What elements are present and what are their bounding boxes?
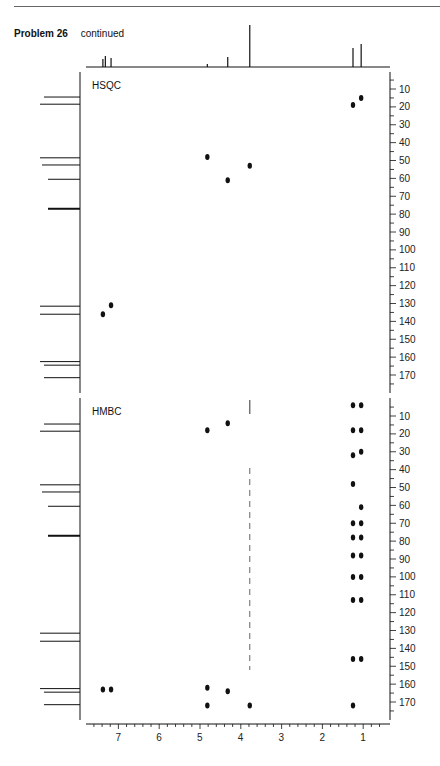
cross-peak [359,656,363,662]
panel-label-hmbc: HMBC [92,406,121,417]
cross-peak [101,686,105,692]
cross-peak [359,535,363,541]
cross-peak [205,703,209,709]
cross-peak [101,311,105,317]
cross-peak [109,302,113,308]
y-tick-label: 20 [399,101,411,112]
cross-peak [248,703,252,709]
y-tick-label: 170 [399,370,416,381]
cross-peak [359,427,363,433]
cross-peak [109,686,113,692]
cross-peak [359,402,363,408]
cross-peak [205,685,209,691]
y-tick-label: 30 [399,446,411,457]
y-tick-label: 90 [399,554,411,565]
y-tick-label: 170 [399,697,416,708]
y-tick-label: 90 [399,227,411,238]
y-tick-label: 70 [399,518,411,529]
y-tick-label: 60 [399,500,411,511]
x-tick-label: 6 [156,732,162,743]
y-tick-label: 80 [399,209,411,220]
y-tick-label: 150 [399,661,416,672]
cross-peak [351,552,355,558]
y-tick-label: 120 [399,280,416,291]
y-tick-label: 130 [399,625,416,636]
cross-peak [351,520,355,526]
x-tick-label: 7 [115,732,121,743]
cross-peak [359,552,363,558]
x-tick-label: 1 [360,732,366,743]
y-tick-label: 160 [399,679,416,690]
cross-peak [226,688,230,694]
y-tick-label: 110 [399,262,415,273]
y-tick-label: 50 [399,155,411,166]
nmr-2d-figure: 1020304050607080901001101201301401501601… [0,0,440,766]
x-tick-label: 3 [279,732,285,743]
panel-label-hsqc: HSQC [92,80,121,91]
y-tick-label: 40 [399,464,411,475]
y-tick-label: 110 [399,589,415,600]
cross-peak [248,163,252,169]
y-tick-label: 140 [399,316,416,327]
y-tick-label: 10 [399,84,411,95]
y-tick-label: 40 [399,137,411,148]
y-tick-label: 100 [399,571,416,582]
y-tick-label: 140 [399,643,416,654]
cross-peak [351,102,355,108]
y-tick-label: 50 [399,482,411,493]
cross-peak [351,597,355,603]
cross-peak [351,656,355,662]
cross-peak [359,574,363,580]
cross-peak [226,420,230,426]
cross-peak [351,574,355,580]
x-tick-label: 4 [238,732,244,743]
y-tick-label: 10 [399,411,411,422]
y-tick-label: 100 [399,244,416,255]
cross-peak [205,154,209,160]
y-tick-label: 80 [399,536,411,547]
cross-peak [359,95,363,101]
cross-peak [226,177,230,183]
y-tick-label: 20 [399,428,411,439]
y-tick-label: 130 [399,298,416,309]
cross-peak [359,597,363,603]
cross-peak [205,427,209,433]
x-tick-label: 2 [319,732,325,743]
y-tick-label: 120 [399,607,416,618]
cross-peak [351,402,355,408]
y-tick-label: 150 [399,334,416,345]
y-tick-label: 160 [399,352,416,363]
y-tick-label: 30 [399,119,411,130]
cross-peak [351,535,355,541]
cross-peak [351,481,355,487]
cross-peak [359,449,363,455]
cross-peak [359,520,363,526]
cross-peak [351,427,355,433]
y-tick-label: 70 [399,191,411,202]
cross-peak [351,703,355,709]
x-tick-label: 5 [197,732,203,743]
y-tick-label: 60 [399,173,411,184]
cross-peak [359,504,363,510]
cross-peak [351,452,355,458]
